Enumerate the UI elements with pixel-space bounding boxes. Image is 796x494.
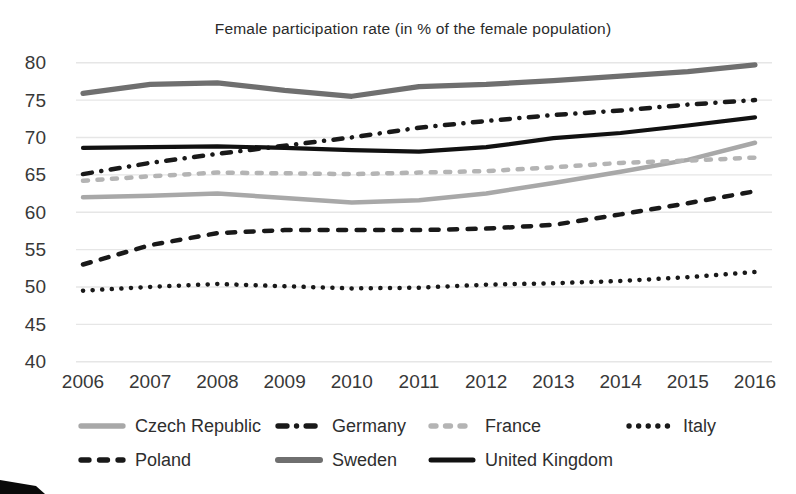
x-axis-label: 2009 [263,371,305,392]
legend-item-germany: Germany [275,418,406,434]
x-axis-label: 2014 [599,371,642,392]
legend-label: Sweden [332,450,397,471]
legend-label: Germany [332,416,406,437]
x-axis-label: 2006 [62,371,104,392]
legend-item-poland: Poland [78,452,191,468]
x-axis-label: 2008 [196,371,238,392]
x-axis-label: 2010 [331,371,373,392]
legend-item-united-kingdom: United Kingdom [428,452,613,468]
legend-swatch [78,420,126,432]
female-participation-chart: Female participation rate (in % of the f… [0,0,796,494]
x-axis-label: 2015 [667,371,709,392]
legend-swatch [78,454,126,466]
x-axis-label: 2013 [532,371,574,392]
legend-item-czech-republic: Czech Republic [78,418,261,434]
legend: Czech RepublicGermanyFranceItalyPolandSw… [0,0,796,90]
x-axis-label: 2007 [129,371,171,392]
legend-item-france: France [428,418,541,434]
legend-swatch [428,454,476,466]
legend-item-sweden: Sweden [275,452,397,468]
x-axis-label: 2011 [399,371,440,392]
legend-label: France [485,416,541,437]
legend-swatch [428,420,476,432]
legend-swatch [275,454,323,466]
scan-artifact [0,0,60,494]
legend-label: Czech Republic [135,416,261,437]
legend-label: United Kingdom [485,450,613,471]
series-line-italy [83,272,755,291]
series-line-france [83,158,755,181]
series-line-united-kingdom [83,117,755,151]
legend-swatch [275,420,323,432]
legend-label: Poland [135,450,191,471]
legend-swatch [626,420,674,432]
x-axis-label: 2016 [734,371,776,392]
x-axis-label: 2012 [465,371,507,392]
legend-label: Italy [683,416,716,437]
legend-item-italy: Italy [626,418,716,434]
